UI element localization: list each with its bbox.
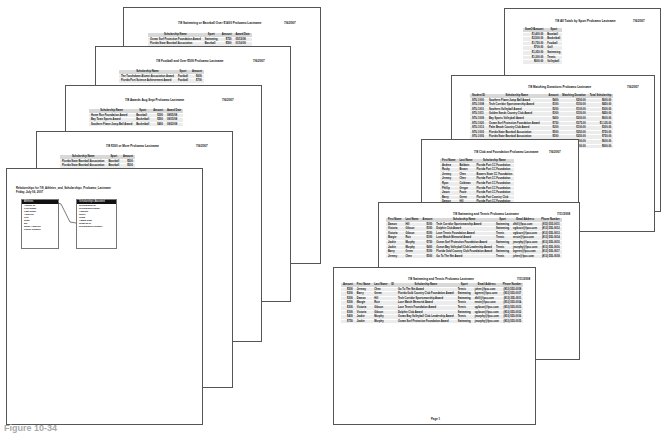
table-cell: $600.00 [523,60,545,64]
table-cell: jmurphy@fpcc.com [473,315,501,320]
table-cell: $500 [421,254,435,258]
table-cell: bgreen@fpcc.com [473,292,501,297]
table-cell: Swimming [494,250,511,255]
table-cell: bgreen@fpcc.com [511,250,539,255]
table-cell: Florida Gold Country Club Foundation Awa… [396,292,456,297]
table-cell: 09/22/08 [165,122,183,126]
table-cell: (813) 555-0014 [539,236,561,241]
table-cell: jchen@fpcc.com [511,254,539,258]
relationships-page: Relationships for 7/8_Athletes_and_Schol… [6,168,203,425]
report-table: AmountFirst NameLast NameIDScholarship N… [341,283,523,323]
table-cell: vgibson@fpcc.com [473,310,501,315]
column-header: Amount [190,70,204,74]
column-header: Last Name [457,159,474,163]
relationship-line [7,169,203,425]
table-cell: Basketball [134,122,151,126]
table-cell: Jeremy [386,254,403,258]
table-cell: Ocean Surf Protection Foundation Award [396,319,456,323]
report-table: Scholarship NameSportAmountAward DateHom… [89,109,183,126]
column-header: SumOfAmount [523,28,545,32]
table-cell: vgibson@fpcc.com [473,305,501,310]
table-cell: Ocean Bay Volleyball Club Leadership Awa… [434,245,494,250]
table-cell: Murphy [372,319,389,323]
table-cell: Basketball [545,37,562,42]
table-cell: The Touchdown Alumni Association Award [119,74,176,79]
table-cell: Go To The Net Award [434,254,494,258]
table-cell: (813) 555-0018 [501,287,523,292]
table-cell: Florida State Baseball Association [60,159,106,164]
table-cell: Baseball [106,159,121,164]
page-title: 7/8 Swimming and Tennis Proloamo Lastnam… [408,277,474,281]
table-cell: (813) 555-0014 [501,301,523,306]
table-cell: $900.00 [588,144,614,148]
table-cell: Basketball [134,118,151,123]
table-cell: Ocean Bay Volleyball Club Leadership Awa… [396,315,456,320]
column-header: Amount [220,33,234,37]
table-cell: jmurphy@fpcc.com [473,319,501,323]
column-header: First Name [386,218,403,222]
page-date: 7/11/2008 [557,212,570,216]
table-cell: (813) 555-0011 [539,222,561,227]
page-title: 7/8 Club and Foundation Proloamo Lastnam… [474,150,539,154]
table-cell: Southern Flame Jump Ball Award [89,122,134,126]
table-cell: Swimming [494,222,511,227]
table-row: BarryGreen$300Florida Gold Country Club … [386,250,562,255]
table-cell: Swimming [456,319,473,323]
column-header: Award Date [234,33,252,37]
table-cell: $400 [151,122,165,126]
table-row: Ocean Surf Protection Foundation AwardSw… [148,37,252,42]
table-cell: Swimming [456,310,473,315]
column-header: Last Name [372,283,389,287]
table-cell: Florida Port CC Foundation [475,191,515,196]
table-cell: Swimming [545,50,562,55]
table-cell: jmurphy@fpcc.com [511,240,539,245]
table-cell: Ocean Surf Protection Foundation Award [487,121,547,126]
page-date: 7/6/2007 [222,98,234,102]
table-cell: (813) 555-0013 [501,305,523,310]
table-cell: Florida Port CC Foundation [475,168,515,173]
table-cell: Ocean Surf Protection Foundation Award [148,37,203,42]
column-header: Phone Number [501,283,523,287]
table-cell: Ocean Surf Protection Foundation Award [434,240,494,245]
table-cell: Chen [403,254,420,258]
page-date: 7/6/2007 [253,59,265,63]
table-cell: Swimming [203,37,220,42]
page-date: 7/6/2007 [549,150,561,154]
table-row: VictoriaGibson$300Love Tennis Foundation… [386,231,562,236]
table-row: Florida Port Science Achievement AwardFo… [119,79,204,83]
table-cell: Florida Port CC Foundation [475,177,515,182]
table-row: Home Run Foundation AwardBaseball$30008/… [89,113,183,118]
table-cell: (813) 555-0012 [539,227,561,232]
table-cell: (813) 555-0018 [539,254,561,258]
table-cell: Florida Port CC Foundation [475,181,515,186]
column-header: Award Date [165,109,183,113]
page-date: 7/6/2007 [627,85,639,89]
table-row: $600.00Volleyball [523,60,562,64]
table-cell: Florida Port CC Foundation [475,163,515,168]
table-cell: (813) 555-0017 [501,292,523,297]
page-title: 7/8 All Totals by Sport Proloamo Lastnam… [555,19,616,23]
page-title: 7/8 Swimming or Baseball Over $1400 Prol… [178,21,261,25]
table-cell: vgibson@fpcc.com [511,227,539,232]
table-cell: (813) 555-0015 [501,319,523,323]
table-row: JackieMurphy$400Ocean Bay Volleyball Clu… [386,245,562,250]
table-cell: Florida Gold Country Club Foundation Awa… [434,250,494,255]
page-title: 7/8 Swimming and Tennis Proloamo Lastnam… [453,212,519,216]
table-cell: Swimming [456,292,473,297]
table-cell [389,319,396,323]
table-cell: (813) 555-0017 [539,250,561,255]
page-title: 7/8 Matching Donations Proloamo Lastname [528,85,591,89]
page-title: 7/8 Football and Over $500 Proloamo Last… [156,59,224,63]
report-table: Scholarship NameSportAmountAward DateOce… [148,33,252,46]
table-cell: $700 [190,79,204,83]
column-header: Amount [151,109,165,113]
column-header: Phone Number [539,218,561,222]
column-header: Matching Donation [560,94,587,98]
header-row: SumOfAmountSport [523,28,562,32]
report-table: SumOfAmountSport$1,400.00Baseball$2,500.… [523,28,562,64]
column-header: Amount [121,155,135,159]
column-header: Total Scholarship [588,94,614,98]
table-cell: (813) 555-0012 [501,310,523,315]
table-row: Southern Flame Jump Ball AwardBasketball… [89,122,183,126]
table-cell: Volleyball [545,60,562,64]
